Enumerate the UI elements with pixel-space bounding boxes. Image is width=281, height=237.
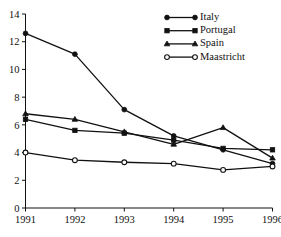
- marker-legend-portugal-b: [193, 29, 197, 33]
- chart-canvas: 02468101214199119921993199419951996Italy…: [0, 0, 281, 237]
- marker-legend-maastricht-a: [165, 55, 170, 60]
- y-axis-ticks: 02468101214: [9, 9, 26, 214]
- y-tick-label: 14: [9, 9, 20, 20]
- legend: ItalyPortugalSpainMaastricht: [164, 11, 245, 62]
- y-tick-label: 8: [14, 92, 19, 103]
- marker-maastricht-1992: [73, 158, 78, 163]
- legend-item-italy: Italy: [165, 11, 220, 22]
- series-spain: [23, 111, 276, 160]
- marker-maastricht-1993: [122, 160, 127, 165]
- y-tick-label: 0: [14, 203, 19, 214]
- marker-legend-italy-b: [193, 15, 198, 20]
- legend-label: Maastricht: [200, 51, 245, 62]
- marker-legend-portugal-a: [165, 29, 169, 33]
- marker-spain-1991: [23, 111, 29, 116]
- legend-item-maastricht: Maastricht: [165, 51, 245, 62]
- y-tick-label: 12: [9, 36, 20, 47]
- axis-lines: [26, 14, 273, 208]
- marker-spain-1995: [220, 125, 226, 130]
- x-tick-label: 1996: [262, 214, 281, 225]
- line-chart: 02468101214199119921993199419951996Italy…: [0, 0, 281, 237]
- x-tick-label: 1992: [64, 214, 85, 225]
- marker-italy-1991: [23, 31, 28, 36]
- marker-italy-1992: [73, 52, 78, 57]
- x-tick-label: 1994: [163, 214, 185, 225]
- y-tick-label: 2: [14, 175, 19, 186]
- marker-maastricht-1991: [23, 150, 28, 155]
- series-line-spain: [26, 114, 273, 158]
- marker-portugal-1992: [73, 128, 77, 132]
- x-axis-ticks: 199119921993199419951996: [15, 208, 281, 225]
- marker-legend-maastricht-b: [193, 55, 198, 60]
- x-tick-label: 1993: [114, 214, 135, 225]
- marker-legend-italy-a: [165, 15, 170, 20]
- marker-italy-1993: [122, 107, 127, 112]
- marker-portugal-1996: [270, 148, 274, 152]
- legend-item-portugal: Portugal: [165, 24, 236, 35]
- legend-item-spain: Spain: [164, 37, 224, 48]
- legend-label: Italy: [200, 11, 220, 22]
- series-line-maastricht: [26, 153, 273, 170]
- marker-maastricht-1994: [171, 161, 176, 166]
- marker-maastricht-1996: [270, 164, 275, 169]
- x-tick-label: 1991: [15, 214, 36, 225]
- y-tick-label: 6: [14, 120, 19, 131]
- legend-label: Spain: [200, 37, 225, 48]
- x-tick-label: 1995: [213, 214, 234, 225]
- legend-label: Portugal: [200, 24, 236, 35]
- marker-portugal-1995: [221, 146, 225, 150]
- y-tick-label: 10: [9, 64, 20, 75]
- marker-portugal-1991: [23, 117, 27, 121]
- y-tick-label: 4: [14, 147, 20, 158]
- marker-maastricht-1995: [221, 167, 226, 172]
- axes: [26, 14, 273, 208]
